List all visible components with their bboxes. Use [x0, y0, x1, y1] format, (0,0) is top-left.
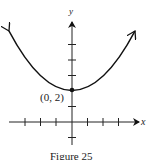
y-axis-label: y — [68, 6, 73, 16]
y-axis — [68, 22, 76, 145]
parabola-chart: (0, 2) y x Figure 25 — [0, 0, 149, 160]
vertex-label: (0, 2) — [40, 91, 64, 104]
x-axis — [9, 118, 139, 126]
x-axis-label: x — [140, 116, 146, 127]
vertex-point — [70, 88, 75, 93]
figure-caption: Figure 25 — [50, 150, 93, 160]
